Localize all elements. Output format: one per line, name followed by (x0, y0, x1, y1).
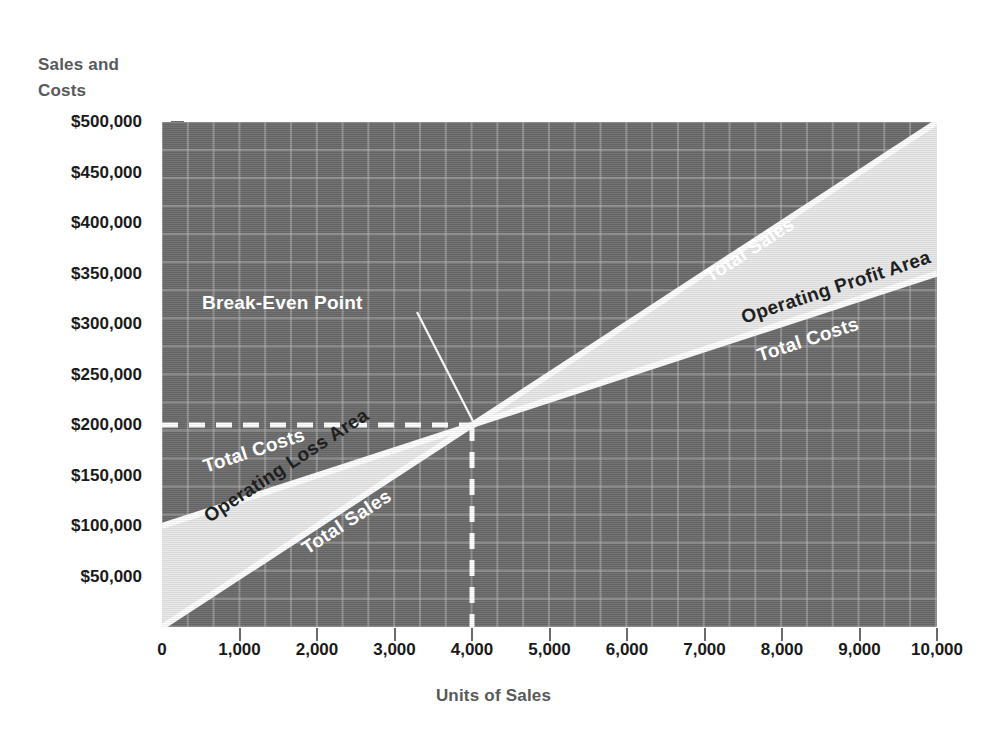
x-axis-tick-mark (936, 628, 938, 641)
x-axis-tick-mark (394, 628, 396, 641)
y-axis-tick-label: $250,000 (22, 365, 142, 385)
y-axis-tick-label: $400,000 (22, 213, 142, 233)
y-axis-tick-label: $450,000 (22, 163, 142, 183)
plot-area: Total Sales Operating Profit Area Total … (162, 122, 937, 627)
y-axis-tick-label: $350,000 (22, 264, 142, 284)
y-axis-tick-label: $100,000 (22, 516, 142, 536)
x-axis-tick-mark (859, 628, 861, 641)
x-axis-tick-label: 1,000 (218, 640, 261, 660)
x-axis-title: Units of Sales (0, 686, 987, 706)
x-axis-tick-mark (704, 628, 706, 641)
chart-canvas: Sales and Costs $50,000$100,000$150,000$… (0, 0, 987, 747)
plot-series-layer (162, 122, 937, 627)
x-axis-tick-label: 6,000 (606, 640, 649, 660)
x-axis-tick-label: 9,000 (838, 640, 881, 660)
x-axis-tick-mark (239, 628, 241, 641)
break-even-leader-line (417, 312, 476, 427)
x-axis-tick-label: 5,000 (528, 640, 571, 660)
y-axis-tick-label: $150,000 (22, 466, 142, 486)
y-axis-tick-label: $500,000 (22, 112, 142, 132)
x-axis-tick-label: 8,000 (761, 640, 804, 660)
break-even-point-label: Break-Even Point (202, 292, 363, 314)
x-axis-tick-mark (626, 628, 628, 641)
x-axis-tick-mark (549, 628, 551, 641)
x-axis-tick-label: 0 (157, 640, 166, 660)
x-axis-tick-label: 3,000 (373, 640, 416, 660)
x-axis-tick-mark (471, 628, 473, 641)
x-axis-tick-label: 4,000 (451, 640, 494, 660)
y-axis-tick-labels: $50,000$100,000$150,000$200,000$250,000$… (22, 0, 142, 747)
y-axis-tick-label: $300,000 (22, 314, 142, 334)
x-axis-tick-label: 2,000 (296, 640, 339, 660)
y-axis-tick-label: $200,000 (22, 415, 142, 435)
x-axis-tick-label: 10,000 (911, 640, 963, 660)
x-axis-tick-mark (781, 628, 783, 641)
x-axis-tick-label: 7,000 (683, 640, 726, 660)
total-sales-line (162, 122, 937, 627)
y-axis-tick-label: $50,000 (22, 567, 142, 587)
x-axis-tick-mark (316, 628, 318, 641)
